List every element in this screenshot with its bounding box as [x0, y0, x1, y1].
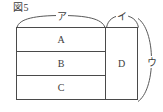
cell-b: B [17, 51, 105, 75]
cell-a-label: A [57, 35, 64, 45]
brace-label-c: ウ [145, 56, 155, 68]
left-column: A B C [17, 28, 106, 99]
figure-diagram-5: 図5 ア イ ウ A B C D [0, 0, 163, 112]
cell-a: A [17, 28, 105, 51]
cell-c: C [17, 75, 105, 99]
figure-label: 図5 [13, 2, 29, 14]
cell-c-label: C [58, 83, 65, 93]
diagram-box: A B C D [16, 27, 138, 100]
cell-d-label: D [118, 59, 125, 69]
right-column: D [106, 28, 137, 99]
brace-label-a: ア [56, 12, 68, 22]
brace-label-b: イ [116, 12, 128, 22]
cell-b-label: B [58, 59, 65, 69]
